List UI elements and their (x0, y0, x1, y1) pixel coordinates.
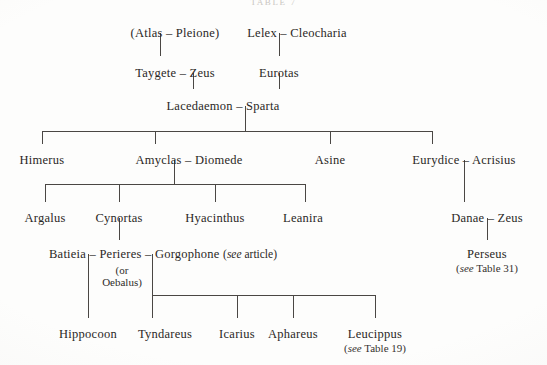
connector-lines-layer (0, 0, 547, 365)
node-label: Danae – Zeus (451, 211, 523, 225)
annotation-see-italic: see (227, 248, 242, 260)
tree-node-eurotas: Eurotas (259, 66, 299, 80)
tree-node-hippocoon: Hippocoon (59, 327, 117, 341)
or-oebalus-line1: (or (116, 264, 129, 276)
node-label: Amyclas – Diomede (135, 153, 242, 167)
annotation-reference: Table 19) (362, 342, 406, 354)
node-label: Eurydice – Acrisius (412, 153, 515, 167)
annotation-reference: Table 31) (474, 262, 518, 274)
genealogical-table-page: TABLE 7 (Atlas – Pleione)Lelex – Cleocha… (0, 0, 547, 365)
node-label: Leanira (283, 211, 323, 225)
tree-node-himerus: Himerus (20, 153, 65, 167)
tree-node-batieia-perieres-gorgophone: Batieia – Perieres – Gorgophone (see art… (49, 247, 277, 261)
node-label: Perseus (467, 247, 507, 261)
node-label: Batieia – Perieres – Gorgophone (49, 247, 223, 261)
tree-node-amyclas-diomede: Amyclas – Diomede (135, 153, 242, 167)
annotation-reference: article) (242, 248, 277, 260)
annotation-see-italic: see (460, 262, 474, 274)
page-title: TABLE 7 (0, 0, 547, 7)
tree-node-atlas-pleione: (Atlas – Pleione) (131, 26, 220, 40)
tree-node-hyacinthus: Hyacinthus (185, 211, 244, 225)
node-label: Himerus (20, 153, 65, 167)
node-annotation: (see article) (223, 248, 277, 260)
tree-node-danae-zeus: Danae – Zeus (451, 211, 523, 225)
node-label: Eurotas (259, 66, 299, 80)
node-label: Hippocoon (59, 327, 117, 341)
node-label: Hyacinthus (185, 211, 244, 225)
tree-node-icarius: Icarius (219, 327, 255, 341)
node-annotation: (see Table 31) (456, 262, 518, 274)
node-annotation: (see Table 19) (344, 342, 406, 354)
node-label: Cynortas (95, 211, 142, 225)
tree-node-lelex-cleocharia: Lelex – Cleocharia (247, 26, 347, 40)
tree-node-aphareus: Aphareus (268, 327, 318, 341)
tree-node-taygete-zeus: Taygete – Zeus (135, 66, 215, 80)
tree-node-lacedaemon-sparta: Lacedaemon – Sparta (166, 99, 279, 113)
tree-node-asine: Asine (315, 153, 345, 167)
node-label: Lelex – Cleocharia (247, 26, 347, 40)
node-label: Argalus (24, 211, 65, 225)
node-label: Tyndareus (138, 327, 192, 341)
tree-node-leanira: Leanira (283, 211, 323, 225)
or-oebalus-annotation: (or Oebalus) (102, 265, 142, 289)
tree-node-cynortas: Cynortas (95, 211, 142, 225)
node-label: (Atlas – Pleione) (131, 26, 220, 40)
tree-node-perseus: Perseus(see Table 31) (456, 247, 518, 274)
tree-node-eurydice-acrisius: Eurydice – Acrisius (412, 153, 515, 167)
or-oebalus-line2: Oebalus) (102, 276, 142, 288)
node-label: Aphareus (268, 327, 318, 341)
annotation-see-italic: see (348, 342, 362, 354)
tree-node-tyndareus: Tyndareus (138, 327, 192, 341)
node-label: Lacedaemon – Sparta (166, 99, 279, 113)
tree-node-argalus: Argalus (24, 211, 65, 225)
paper-texture-overlay (0, 0, 547, 365)
node-label: Icarius (219, 327, 255, 341)
node-label: Asine (315, 153, 345, 167)
tree-node-leucippus: Leucippus(see Table 19) (344, 327, 406, 354)
node-label: Leucippus (348, 327, 402, 341)
node-label: Taygete – Zeus (135, 66, 215, 80)
